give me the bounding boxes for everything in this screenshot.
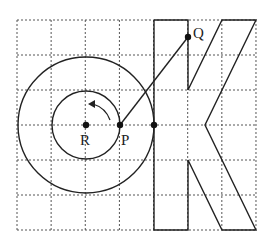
point-P [117, 122, 123, 128]
arrowhead-icon [88, 100, 95, 108]
point-Q [185, 34, 191, 40]
point-R [83, 122, 89, 128]
point-unlabeled [151, 122, 157, 128]
label-R: R [80, 132, 90, 148]
diagram-canvas: R P Q [0, 0, 270, 245]
rotation-arrow-icon [93, 104, 110, 120]
dotted-grid [17, 20, 256, 230]
label-P: P [121, 132, 129, 148]
label-Q: Q [193, 25, 204, 41]
